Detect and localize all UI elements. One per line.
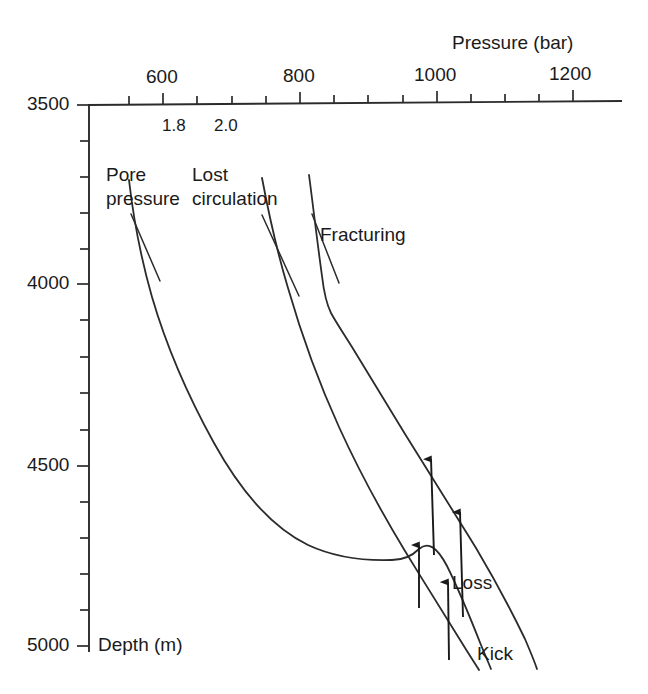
series-label-pore-pressure-line2: pressure — [106, 188, 180, 210]
kick-lower-arrow — [448, 582, 449, 660]
y-axis-title: Depth (m) — [98, 634, 182, 656]
pore-pressure-curve — [129, 180, 491, 669]
sg-tick-label-1-8: 1.8 — [162, 116, 186, 136]
loss-arrow — [431, 459, 434, 555]
y-tick-label-4000: 4000 — [27, 272, 69, 294]
x-tick-label-800: 800 — [283, 65, 315, 87]
annotation-label-kick: Kick — [477, 643, 513, 665]
axis-lines — [88, 101, 622, 652]
lost-circulation-curve — [262, 178, 479, 670]
y-axis-ticks — [77, 105, 89, 646]
x-axis-line — [88, 101, 622, 105]
x-tick-label-1200: 1200 — [549, 63, 591, 85]
label-leader-lines — [131, 214, 339, 296]
pressure-depth-chart: Pressure (bar) 600 800 1000 1200 1.8 2.0… — [0, 0, 648, 694]
lost-circulation-leader — [262, 215, 299, 296]
x-axis-title: Pressure (bar) — [452, 32, 573, 54]
series-label-lost-circulation-line2: circulation — [192, 188, 278, 210]
x-tick-label-1000: 1000 — [414, 64, 456, 86]
y-tick-label-5000: 5000 — [27, 634, 69, 656]
annotation-arrows — [419, 459, 463, 660]
y-tick-label-3500: 3500 — [27, 93, 69, 115]
chart-canvas — [0, 0, 648, 694]
series-label-fracturing: Fracturing — [320, 224, 406, 246]
x-tick-label-600: 600 — [146, 66, 178, 88]
sg-tick-label-2-0: 2.0 — [214, 116, 238, 136]
data-curves — [129, 175, 537, 670]
fracturing-curve — [309, 175, 537, 669]
series-label-lost-circulation-line1: Lost — [192, 164, 228, 186]
series-label-pore-pressure-line1: Pore — [106, 164, 146, 186]
y-tick-label-4500: 4500 — [27, 454, 69, 476]
annotation-label-loss: Loss — [452, 572, 492, 594]
